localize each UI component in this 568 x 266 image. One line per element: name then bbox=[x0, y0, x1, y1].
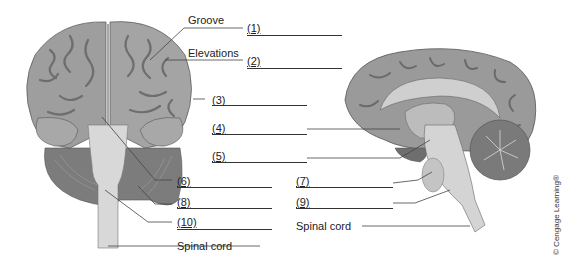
blank-number-5: (5) bbox=[212, 150, 225, 162]
blank-number-2: (2) bbox=[247, 55, 260, 67]
answer-blank-5[interactable] bbox=[212, 162, 307, 163]
answer-blank-2[interactable] bbox=[247, 68, 342, 69]
spinal-cord-label-left: Spinal cord bbox=[177, 240, 232, 252]
blank-number-8: (8) bbox=[177, 196, 190, 208]
answer-blank-7[interactable] bbox=[296, 187, 393, 188]
groove-label: Groove bbox=[188, 14, 224, 26]
elevations-label: Elevations bbox=[188, 47, 239, 59]
answer-blank-1[interactable] bbox=[247, 35, 342, 36]
sagittal-brain bbox=[345, 49, 536, 232]
answer-blank-9[interactable] bbox=[296, 208, 393, 209]
answer-blank-8[interactable] bbox=[177, 208, 272, 209]
blank-number-7: (7) bbox=[296, 175, 309, 187]
brain-illustrations bbox=[0, 0, 568, 266]
copyright-notice: © Cengage Learning® bbox=[552, 175, 561, 255]
blank-number-10: (10) bbox=[177, 216, 197, 228]
blank-number-6: (6) bbox=[177, 175, 190, 187]
answer-blank-10[interactable] bbox=[177, 229, 272, 230]
spinal-cord-label-right: Spinal cord bbox=[296, 220, 351, 232]
answer-blank-3[interactable] bbox=[212, 105, 307, 106]
blank-number-4: (4) bbox=[212, 122, 225, 134]
anterior-brain bbox=[27, 22, 192, 248]
blank-number-9: (9) bbox=[296, 196, 309, 208]
answer-blank-6[interactable] bbox=[177, 187, 272, 188]
answer-blank-4[interactable] bbox=[212, 134, 307, 135]
blank-number-1: (1) bbox=[247, 22, 260, 34]
